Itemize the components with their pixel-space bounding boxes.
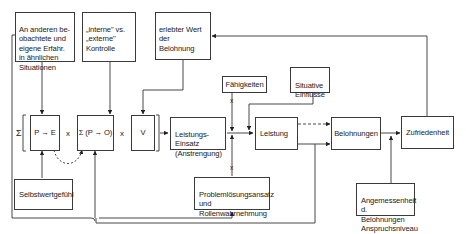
box-v-label: V bbox=[141, 128, 146, 138]
box-zufriedenheit-label: Zufriedenheit bbox=[406, 128, 449, 138]
box-zufriedenheit: Zufriedenheit bbox=[401, 116, 454, 149]
box-problemloesung-label: Problemlösungsansatz und Rollenwahrnehmu… bbox=[199, 190, 274, 218]
multiply-marker-bottom: x bbox=[230, 164, 233, 171]
box-po-label: Σ (P → O) bbox=[79, 128, 113, 138]
box-einsatz-label: Leistungs- Einsatz (Anstrengung) bbox=[175, 130, 222, 158]
box-faehigkeiten: Fähigkeiten bbox=[222, 76, 267, 93]
box-situative-label: Situative Einflüsse bbox=[295, 81, 325, 100]
box-situative: Situative Einflüsse bbox=[290, 67, 330, 93]
box-wert: erlebter Wert der Belohnung bbox=[155, 12, 211, 60]
box-v: V bbox=[131, 115, 155, 151]
box-erfahrung: An anderen be- obachtete und eigene Erfa… bbox=[15, 12, 75, 62]
times-symbol-2: x bbox=[120, 129, 124, 138]
box-kontrolle-label: „interne" vs. „externe" Kontrolle bbox=[86, 25, 125, 53]
box-kontrolle: „interne" vs. „externe" Kontrolle bbox=[82, 12, 136, 62]
box-po: Σ (P → O) bbox=[77, 115, 114, 151]
box-angemessenheit: Angemessenheit d. Belohnungen Anspruchsn… bbox=[356, 183, 415, 216]
sigma-symbol: Σ bbox=[16, 129, 22, 138]
box-leistung-label: Leistung bbox=[260, 129, 288, 139]
box-angemessenheit-label: Angemessenheit d. Belohnungen Anspruchsn… bbox=[361, 196, 418, 234]
times-symbol-1: x bbox=[66, 129, 70, 138]
box-problemloesung: Problemlösungsansatz und Rollenwahrnehmu… bbox=[194, 177, 270, 210]
box-belohnungen-label: Belohnungen bbox=[334, 129, 378, 139]
box-wert-label: erlebter Wert der Belohnung bbox=[159, 25, 201, 53]
box-selbstwert-label: Selbstwertgefühl bbox=[19, 190, 74, 200]
multiply-marker-top: x bbox=[230, 97, 233, 104]
box-einsatz: Leistungs- Einsatz (Anstrengung) bbox=[170, 117, 226, 150]
box-belohnungen: Belohnungen bbox=[331, 117, 381, 150]
box-selbstwert: Selbstwertgefühl bbox=[14, 179, 73, 210]
box-faehigkeiten-label: Fähigkeiten bbox=[225, 80, 263, 90]
diagram-canvas: An anderen be- obachtete und eigene Erfa… bbox=[0, 0, 466, 234]
box-leistung: Leistung bbox=[255, 117, 298, 150]
box-pe-label: P → E bbox=[34, 128, 55, 138]
box-pe: P → E bbox=[30, 115, 60, 151]
